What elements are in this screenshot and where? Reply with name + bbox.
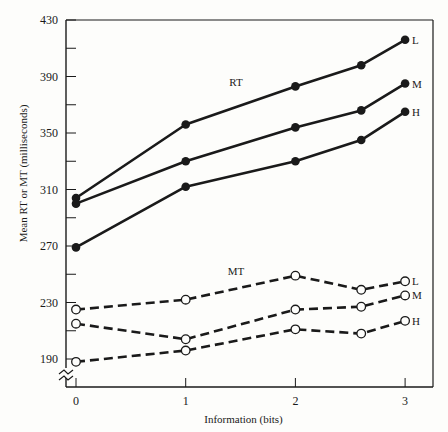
data-point-open-icon [72, 319, 81, 328]
group-label-rt: RT [229, 76, 243, 88]
data-point-filled-icon [291, 123, 300, 132]
data-point-filled-icon [181, 120, 190, 129]
data-point-filled-icon [72, 199, 81, 208]
data-point-open-icon [357, 329, 366, 338]
y-tick-label: 230 [40, 296, 58, 310]
data-point-open-icon [401, 277, 410, 286]
series-line [76, 84, 405, 204]
data-point-filled-icon [291, 157, 300, 166]
x-tick-label: 2 [292, 394, 298, 408]
data-point-filled-icon [357, 61, 366, 70]
data-point-filled-icon [72, 243, 81, 252]
data-point-open-icon [181, 295, 190, 304]
data-point-open-icon [181, 346, 190, 355]
x-tick-label: 3 [402, 394, 408, 408]
x-tick-label: 1 [183, 394, 189, 408]
series-line [76, 321, 405, 362]
series-line [76, 112, 405, 248]
y-tick-label: 430 [40, 13, 58, 27]
series-line [76, 276, 405, 310]
data-point-open-icon [72, 305, 81, 314]
data-point-filled-icon [401, 35, 410, 44]
y-tick-label: 270 [40, 239, 58, 253]
data-point-open-icon [291, 325, 300, 334]
data-point-filled-icon [357, 106, 366, 115]
x-axis-label: Information (bits) [204, 413, 283, 426]
axis-break-icon [59, 370, 73, 380]
data-point-open-icon [72, 358, 81, 367]
y-tick-label: 350 [40, 126, 58, 140]
data-point-filled-icon [357, 136, 366, 145]
data-point-filled-icon [401, 108, 410, 117]
y-tick-label: 310 [40, 183, 58, 197]
data-point-filled-icon [181, 182, 190, 191]
y-axis-label: Mean RT or MT (milliseconds) [17, 104, 30, 242]
data-point-open-icon [181, 335, 190, 344]
data-point-open-icon [401, 317, 410, 326]
data-point-filled-icon [181, 157, 190, 166]
series-end-label: L [412, 275, 419, 287]
data-point-open-icon [357, 285, 366, 294]
data-point-open-icon [401, 291, 410, 300]
series-end-label: M [412, 289, 422, 301]
series-end-label: H [412, 315, 420, 327]
line-chart: 1902302703103503904300123Information (bi… [0, 0, 448, 432]
data-point-filled-icon [291, 82, 300, 91]
data-point-filled-icon [401, 79, 410, 88]
data-point-open-icon [291, 305, 300, 314]
y-tick-label: 390 [40, 70, 58, 84]
group-label-mt: MT [228, 265, 245, 277]
series-end-label: L [412, 34, 419, 46]
data-point-open-icon [291, 271, 300, 280]
series-end-label: M [412, 78, 422, 90]
data-point-open-icon [357, 302, 366, 311]
x-tick-label: 0 [73, 394, 79, 408]
y-tick-label: 190 [40, 352, 58, 366]
series-end-label: H [412, 106, 420, 118]
